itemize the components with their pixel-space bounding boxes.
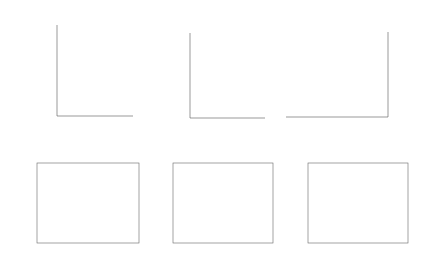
panel-a <box>0 0 140 140</box>
phase-plot-d <box>0 140 140 276</box>
waterfall-plot-c <box>280 0 427 140</box>
panel-f <box>280 140 427 276</box>
waterfall-plot-a <box>0 0 140 140</box>
phase-plot-f <box>280 140 427 276</box>
phase-plot-e <box>140 140 280 276</box>
waterfall-plot-b <box>140 0 280 140</box>
panel-c <box>280 0 427 140</box>
panel-d <box>0 140 140 276</box>
panel-b <box>140 0 280 140</box>
panel-e <box>140 140 280 276</box>
